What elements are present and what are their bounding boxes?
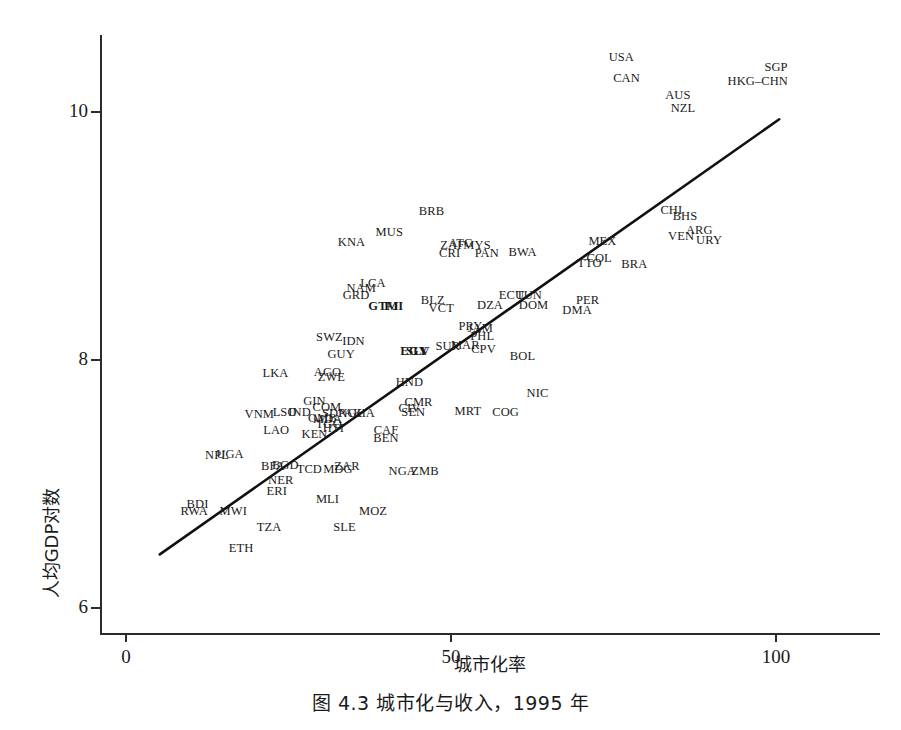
data-point-label: AUS: [665, 88, 690, 101]
data-point-label: MLI: [316, 492, 339, 505]
data-point-label: VEN: [668, 230, 694, 243]
data-point-label: ZMB: [411, 465, 438, 478]
data-point-label: SLE: [333, 521, 356, 534]
data-point-label: SEN: [401, 406, 425, 419]
data-point-label: SLV: [406, 345, 429, 358]
data-point-label: VNM: [245, 408, 274, 421]
data-point-label: CPV: [471, 342, 496, 355]
data-point-label: KNA: [338, 236, 365, 249]
y-axis-line: [100, 35, 102, 635]
data-point-label: URY: [696, 233, 722, 246]
y-tick-mark: [91, 607, 100, 609]
figure-caption: 图 4.3 城市化与收入，1995 年: [0, 688, 901, 715]
data-point-label: SGP: [764, 61, 787, 74]
x-tick-mark: [125, 633, 127, 642]
data-point-label: NIC: [527, 387, 549, 400]
figure-container: 6810 050100 USACANSGPHKG–CHNAUSNZLCHIBHS…: [0, 0, 901, 730]
y-axis-title-wrapper: 人均GDP对数: [14, 230, 54, 390]
data-point-label: LAO: [263, 424, 289, 437]
data-point-label: HKG–CHN: [728, 75, 788, 88]
data-point-label: HND: [396, 376, 423, 389]
x-tick-mark: [450, 633, 452, 642]
data-point-label: USA: [609, 51, 634, 64]
data-point-label: UGA: [216, 448, 243, 461]
data-point-label: BWA: [508, 246, 536, 259]
data-point-label: ZWE: [318, 371, 345, 384]
data-point-label: GUY: [327, 347, 354, 360]
data-point-label: KEN: [302, 428, 328, 441]
data-point-label: MRT: [455, 404, 482, 417]
data-point-label: MEX: [588, 235, 616, 248]
data-point-label: DMA: [562, 304, 591, 317]
data-point-label: BRA: [621, 258, 647, 271]
data-point-label: BRB: [419, 205, 444, 218]
y-tick-label: 10: [40, 101, 88, 120]
x-tick-mark: [775, 633, 777, 642]
data-point-label: MOZ: [359, 505, 387, 518]
data-point-label: MUS: [376, 226, 403, 239]
data-point-label: NZL: [671, 102, 696, 115]
data-point-label: BHS: [673, 210, 698, 223]
data-point-label: MWI: [220, 505, 247, 518]
data-point-label: CAN: [613, 72, 640, 85]
data-point-label: BGD: [272, 459, 299, 472]
x-axis-title: 城市化率: [100, 650, 880, 676]
data-point-label: SWZ: [316, 331, 343, 344]
data-point-label: VCT: [429, 301, 454, 314]
data-point-label: ETH: [229, 542, 254, 555]
data-point-label: PAN: [475, 247, 499, 260]
data-point-label: FJI: [384, 300, 403, 313]
plot-area: 6810 050100 USACANSGPHKG–CHNAUSNZLCHIBHS…: [100, 35, 880, 635]
y-tick-mark: [91, 359, 100, 361]
data-point-label: ZAR: [334, 460, 359, 473]
data-point-label: CRI: [439, 247, 460, 260]
plot-surface: 6810 050100 USACANSGPHKG–CHNAUSNZLCHIBHS…: [100, 35, 880, 635]
data-point-label: TCD: [297, 463, 322, 476]
data-point-label: BEN: [373, 432, 398, 445]
data-point-label: DOM: [519, 299, 548, 312]
data-point-label: ERI: [267, 485, 287, 498]
data-point-label: SUR: [435, 340, 460, 353]
data-point-label: GRD: [343, 289, 370, 302]
data-point-label: RWA: [181, 505, 208, 518]
data-point-label: TZA: [257, 521, 282, 534]
x-axis-line: [100, 633, 880, 635]
data-point-label: GHA: [348, 407, 375, 420]
data-point-label: LKA: [263, 367, 289, 380]
data-point-label: TTO: [577, 257, 601, 270]
y-tick-mark: [91, 111, 100, 113]
y-axis-title: 人均GDP对数: [37, 443, 63, 643]
data-point-label: BOL: [510, 350, 535, 363]
data-point-label: COG: [492, 406, 519, 419]
